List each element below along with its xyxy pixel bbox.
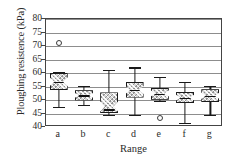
y-tick-label: 80: [16, 13, 42, 23]
x-tick-label: f: [172, 128, 196, 139]
x-tick-label: c: [96, 128, 120, 139]
plot-area: [45, 18, 222, 126]
x-tick-label: a: [46, 128, 70, 139]
x-tick-label: g: [197, 128, 221, 139]
y-tick-label: 55: [16, 81, 42, 91]
x-tick-label: e: [147, 128, 171, 139]
y-tick-label: 40: [16, 121, 42, 131]
x-tick-label: b: [71, 128, 95, 139]
whisker-cap-upper: [204, 86, 216, 87]
y-tick-label: 45: [16, 108, 42, 118]
y-tick-label: 60: [16, 67, 42, 77]
y-tick-mark: [41, 126, 45, 127]
whisker-cap-lower: [204, 115, 216, 116]
boxplot-figure: Ploughing resistence (kPa) 4045505560657…: [0, 0, 232, 160]
y-tick-label: 70: [16, 40, 42, 50]
median-line: [205, 96, 216, 98]
y-tick-label: 75: [16, 27, 42, 37]
boxplot-box: [46, 19, 222, 125]
y-tick-label: 65: [16, 54, 42, 64]
y-tick-label: 50: [16, 94, 42, 104]
x-axis-label: Range: [45, 143, 222, 154]
x-tick-label: d: [122, 128, 146, 139]
